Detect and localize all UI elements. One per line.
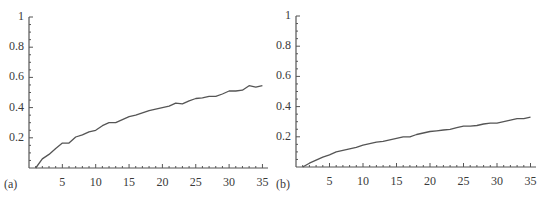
y-tick-label: 0.2 xyxy=(0,131,24,143)
x-tick-label: 20 xyxy=(420,175,440,187)
y-tick-label: 0.2 xyxy=(267,130,291,142)
y-tick-label: 1 xyxy=(0,10,24,22)
y-tick-label: 0.6 xyxy=(267,69,291,81)
chart-panel-a: (a) 0.20.40.60.815101520253035 xyxy=(0,0,271,197)
data-line xyxy=(303,117,531,167)
x-tick-label: 10 xyxy=(353,175,373,187)
x-tick-label: 5 xyxy=(52,176,72,188)
x-tick-label: 30 xyxy=(487,175,507,187)
panel-label-b: (b) xyxy=(276,178,290,190)
chart-panel-b: (b) 0.20.40.60.815101520253035 xyxy=(272,0,543,197)
y-tick-label: 0.6 xyxy=(0,70,24,82)
data-line xyxy=(36,86,263,168)
y-tick-label: 1 xyxy=(267,9,291,21)
x-tick-label: 25 xyxy=(454,175,474,187)
x-tick-label: 25 xyxy=(186,176,206,188)
y-tick-label: 0.8 xyxy=(267,39,291,51)
chart-b-plot xyxy=(272,0,543,197)
x-tick-label: 35 xyxy=(252,176,272,188)
x-tick-label: 20 xyxy=(152,176,172,188)
panel-label-a: (a) xyxy=(4,178,17,190)
y-tick-label: 0.8 xyxy=(0,40,24,52)
x-tick-label: 10 xyxy=(86,176,106,188)
chart-a-plot xyxy=(0,0,271,197)
x-tick-label: 15 xyxy=(387,175,407,187)
x-tick-label: 15 xyxy=(119,176,139,188)
y-tick-label: 0.4 xyxy=(0,101,24,113)
x-tick-label: 30 xyxy=(219,176,239,188)
x-tick-label: 5 xyxy=(320,175,340,187)
x-tick-label: 35 xyxy=(521,175,541,187)
y-tick-label: 0.4 xyxy=(267,100,291,112)
